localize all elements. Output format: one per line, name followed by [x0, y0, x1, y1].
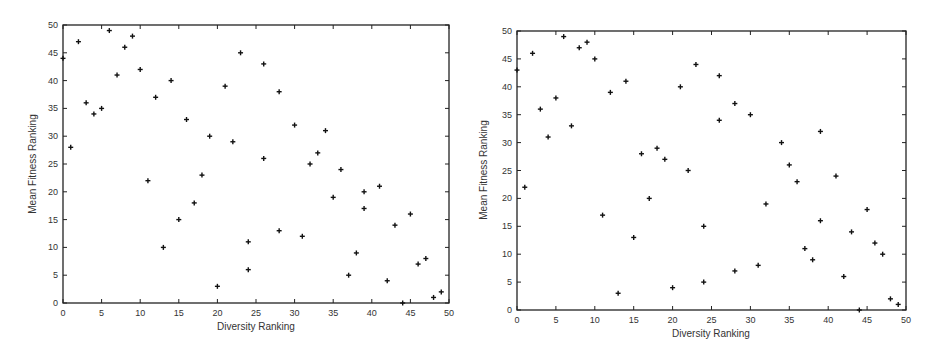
- plot-frame: [63, 25, 449, 303]
- y-tick-label: 15: [48, 215, 58, 225]
- plot-area: 0510152025303540455005101520253035404550: [502, 26, 911, 325]
- y-tick-label: 5: [507, 277, 512, 287]
- data-point: [561, 34, 566, 39]
- data-point: [888, 296, 893, 301]
- data-point: [569, 123, 574, 128]
- data-point: [215, 284, 220, 289]
- data-point: [802, 246, 807, 251]
- data-point: [161, 245, 166, 250]
- right-chart-svg: Diversity Ranking Mean Fitness Ranking 0…: [465, 0, 930, 348]
- x-tick-label: 40: [823, 315, 833, 325]
- data-point: [439, 289, 444, 294]
- x-tick-label: 10: [590, 315, 600, 325]
- y-tick-label: 40: [48, 76, 58, 86]
- left-chart-svg: Diversity Ranking Mean Fitness Ranking 0…: [0, 0, 465, 348]
- y-tick-label: 30: [502, 138, 512, 148]
- x-tick-label: 0: [60, 308, 65, 318]
- data-point: [678, 84, 683, 89]
- data-point: [68, 145, 73, 150]
- data-point: [416, 262, 421, 267]
- data-point: [385, 278, 390, 283]
- data-point: [748, 112, 753, 117]
- x-tick-label: 30: [745, 315, 755, 325]
- x-tick-label: 35: [328, 308, 338, 318]
- data-point: [647, 196, 652, 201]
- data-point: [795, 179, 800, 184]
- y-axis-label: Mean Fitness Ranking: [478, 120, 489, 220]
- y-axis-label: Mean Fitness Ranking: [27, 114, 38, 214]
- data-point: [538, 107, 543, 112]
- data-point: [230, 139, 235, 144]
- x-tick-label: 25: [706, 315, 716, 325]
- y-tick-label: 35: [502, 110, 512, 120]
- data-point: [192, 200, 197, 205]
- data-point: [300, 234, 305, 239]
- y-tick-label: 20: [502, 193, 512, 203]
- y-tick-label: 50: [502, 26, 512, 36]
- data-point: [246, 267, 251, 272]
- data-point: [169, 78, 174, 83]
- data-point: [176, 217, 181, 222]
- data-point: [818, 218, 823, 223]
- data-point: [701, 280, 706, 285]
- y-tick-label: 30: [48, 131, 58, 141]
- data-point: [261, 61, 266, 66]
- y-tick-label: 20: [48, 187, 58, 197]
- data-point: [362, 189, 367, 194]
- data-point: [756, 263, 761, 268]
- data-point: [99, 106, 104, 111]
- data-point: [84, 100, 89, 105]
- x-tick-label: 50: [444, 308, 454, 318]
- data-point: [184, 117, 189, 122]
- data-point: [631, 235, 636, 240]
- data-point: [153, 95, 158, 100]
- data-point: [732, 101, 737, 106]
- data-point: [207, 134, 212, 139]
- data-point: [199, 173, 204, 178]
- data-point: [693, 62, 698, 67]
- data-point: [670, 285, 675, 290]
- data-point: [338, 167, 343, 172]
- x-tick-label: 5: [553, 315, 558, 325]
- data-point: [115, 73, 120, 78]
- x-tick-label: 45: [862, 315, 872, 325]
- x-tick-label: 20: [212, 308, 222, 318]
- data-point: [277, 89, 282, 94]
- data-point: [377, 184, 382, 189]
- data-point: [308, 162, 313, 167]
- data-point: [138, 67, 143, 72]
- x-tick-label: 15: [174, 308, 184, 318]
- data-point: [787, 162, 792, 167]
- data-point: [315, 150, 320, 155]
- data-point: [91, 111, 96, 116]
- y-tick-label: 25: [502, 166, 512, 176]
- data-point: [833, 174, 838, 179]
- data-point: [779, 140, 784, 145]
- data-point: [639, 151, 644, 156]
- data-point: [122, 45, 127, 50]
- y-tick-label: 0: [507, 305, 512, 315]
- data-point: [553, 95, 558, 100]
- data-point: [145, 178, 150, 183]
- data-point: [880, 252, 885, 257]
- data-point: [130, 34, 135, 39]
- data-point: [423, 256, 428, 261]
- data-point: [530, 51, 535, 56]
- x-tick-label: 35: [784, 315, 794, 325]
- data-point: [655, 146, 660, 151]
- data-point: [810, 257, 815, 262]
- data-point: [431, 295, 436, 300]
- plot-frame: [517, 31, 906, 310]
- y-tick-label: 10: [502, 249, 512, 259]
- data-point: [76, 39, 81, 44]
- x-tick-label: 15: [629, 315, 639, 325]
- x-tick-label: 10: [135, 308, 145, 318]
- data-point: [277, 228, 282, 233]
- y-tick-label: 25: [48, 159, 58, 169]
- right-scatter-chart: Diversity Ranking Mean Fitness Ranking 0…: [465, 0, 930, 348]
- data-point: [717, 73, 722, 78]
- y-tick-label: 45: [48, 48, 58, 58]
- data-point: [717, 118, 722, 123]
- y-tick-label: 45: [502, 54, 512, 64]
- data-point: [701, 224, 706, 229]
